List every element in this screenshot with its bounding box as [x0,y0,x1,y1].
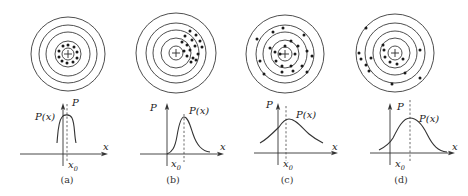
hit-dot [62,45,65,48]
hit-dot [191,39,194,42]
hit-dot [263,73,266,76]
hit-dot [272,31,275,34]
hit-dot [195,59,198,62]
hit-dot [301,65,304,68]
target-distribution-figure: PP(x)xx0(a)PP(x)xx0(b)PP(x)xx0(c)PP(x)xx… [0,0,468,196]
hit-dot [269,47,272,50]
hit-dot [360,58,363,61]
hit-dot [290,65,293,68]
panel-b: PP(x)xx0(b) [136,13,226,185]
panel-a: PP(x)xx0(a) [20,17,109,185]
hit-dot [297,45,300,48]
hit-dot [391,83,394,86]
hit-dot [281,65,284,68]
hit-dot [184,35,187,38]
hit-dot [275,60,278,63]
subscript-zero: 0 [74,165,78,173]
hit-dot [419,49,422,52]
hit-dot [306,50,309,53]
hit-dot [303,34,306,37]
hit-dot [274,51,277,54]
panel-caption: (c) [281,174,294,185]
hit-dot [389,61,392,64]
hit-dot [306,71,309,74]
hit-dot [186,44,189,47]
hit-dot [194,45,197,48]
x-axis-label: x [220,141,226,152]
hit-dot [292,70,295,73]
hit-dot [368,70,371,73]
hit-dot [66,62,69,65]
target-d [356,14,434,92]
probability-curve [167,117,210,154]
hit-dot [402,58,405,61]
x-axis-label: x [332,141,338,152]
panel-d: PP(x)xx0(d) [356,14,458,185]
hit-dot [259,60,262,63]
hit-dot [181,41,184,44]
hit-dot [281,71,284,74]
x0-label: x0 [283,158,293,172]
hit-dot [419,77,422,80]
hit-dot [76,51,79,54]
panel-caption: (b) [166,174,180,185]
target-b [136,13,216,93]
subscript-zero: 0 [401,164,405,172]
p-axis-label: P [396,101,404,112]
hit-dot [67,44,70,47]
hit-dot [192,57,195,60]
hit-dot [73,46,76,49]
hit-dot [384,56,387,59]
hit-dot [358,52,361,55]
x-axis-label: x [103,141,109,152]
hit-dot [61,60,64,63]
x0-label: x0 [171,158,181,172]
hit-dot [186,55,189,58]
hit-dot [189,49,192,52]
subscript-zero: 0 [289,164,293,172]
hit-dot [201,46,204,49]
hit-dot [199,40,202,43]
hit-dot [404,72,407,75]
p-axis-label: P [71,97,79,108]
hit-dot [190,61,193,64]
hit-dot [72,61,75,64]
hit-dot [365,27,368,30]
hit-dot [58,56,61,59]
hit-dot [197,53,200,56]
hit-dot [183,50,186,53]
px-curve-label: P(x) [188,105,209,116]
probability-curve [260,119,323,143]
hit-dot [256,38,259,41]
px-curve-label: P(x) [418,113,439,124]
probability-curve [57,115,76,143]
target-a [31,17,105,91]
x-axis-label: x [452,141,458,152]
hit-dot [282,27,285,30]
panel-caption: (d) [394,174,408,185]
hit-dot [396,63,399,66]
panel-caption: (a) [60,174,73,185]
x0-label: x0 [68,159,78,173]
distribution-plot-b: PP(x)xx0 [140,102,226,172]
p-axis-label: P [149,102,157,113]
distribution-plot-a: PP(x)xx0 [20,97,109,173]
hit-dot [365,64,368,67]
hit-dot [370,57,373,60]
distribution-plot-c: PP(x)xx0 [254,99,338,172]
hit-dot [382,44,385,47]
hit-dot [189,30,192,33]
x0-label: x0 [395,158,405,172]
hit-dot [76,57,79,60]
hit-dot [294,53,297,56]
target-c [246,15,324,93]
hit-dot [311,55,314,58]
hit-dot [58,50,61,53]
hit-dot [290,40,293,43]
hit-dot [279,53,282,56]
p-axis-label: P [265,99,273,110]
hit-dot [195,34,198,37]
px-curve-label: P(x) [295,109,316,120]
distribution-plot-d: PP(x)xx0 [370,100,458,172]
hit-dot [284,45,287,48]
